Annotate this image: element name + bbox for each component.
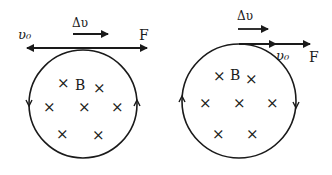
left-field-label: B [75, 77, 85, 93]
left-diagram: υ₀ Δυ F B × × × × × × × [18, 16, 149, 158]
svg-text:×: × [246, 125, 259, 143]
svg-text:×: × [93, 79, 106, 97]
left-v0-label: υ₀ [18, 27, 32, 42]
svg-text:×: × [233, 94, 246, 112]
svg-text:×: × [245, 70, 258, 88]
svg-text:×: × [213, 67, 226, 85]
right-v0-label: υ₀ [276, 48, 290, 63]
svg-text:×: × [266, 94, 279, 112]
right-field-label: B [230, 67, 240, 83]
svg-text:×: × [57, 74, 70, 92]
diagram-canvas: υ₀ Δυ F B × × × × × × × Δυ υ₀ F B × × × … [0, 0, 332, 175]
right-diagram: Δυ υ₀ F B × × × × × × × [179, 9, 319, 158]
svg-text:×: × [199, 94, 212, 112]
svg-text:×: × [56, 125, 69, 143]
svg-text:×: × [212, 125, 225, 143]
left-force-label: F [139, 27, 149, 43]
right-dv-label: Δυ [237, 9, 253, 23]
left-dv-label: Δυ [72, 16, 88, 30]
svg-text:×: × [78, 98, 91, 116]
right-force-label: F [309, 49, 319, 65]
svg-text:×: × [92, 126, 105, 144]
svg-text:×: × [43, 98, 56, 116]
svg-text:×: × [111, 98, 124, 116]
